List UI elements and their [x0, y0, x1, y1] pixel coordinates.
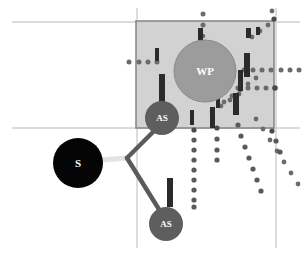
bar-12	[167, 178, 173, 207]
dot-ray-vertical-long	[191, 127, 196, 209]
bar-2	[159, 74, 165, 102]
dot-ray-vertical-short	[214, 125, 219, 162]
node-wp[interactable]: WP	[174, 40, 236, 102]
link-junction-as1	[127, 131, 154, 158]
node-as1-label: AS	[156, 113, 168, 123]
dot-ray-diagonal-c	[235, 122, 263, 193]
node-as1[interactable]: AS	[145, 101, 179, 135]
link-junction-as2	[127, 158, 160, 211]
node-as2[interactable]: AS	[149, 207, 183, 241]
figure-canvas: WP AS AS S	[0, 0, 304, 262]
bar-8	[233, 93, 239, 115]
bar-5	[256, 27, 260, 35]
network-diagram-svg: WP AS AS S	[0, 0, 304, 262]
bar-7	[238, 70, 243, 91]
bar-3	[198, 28, 203, 41]
node-source[interactable]: S	[53, 138, 103, 188]
bar-4	[246, 28, 251, 38]
bar-10	[190, 110, 194, 125]
links-group	[101, 131, 160, 211]
node-as2-label: AS	[160, 219, 172, 229]
bar-1	[155, 48, 159, 61]
bar-11	[210, 107, 215, 128]
node-source-label: S	[75, 157, 81, 169]
bar-6	[244, 53, 250, 77]
node-wp-label: WP	[196, 65, 214, 77]
link-source-junction	[101, 158, 127, 160]
